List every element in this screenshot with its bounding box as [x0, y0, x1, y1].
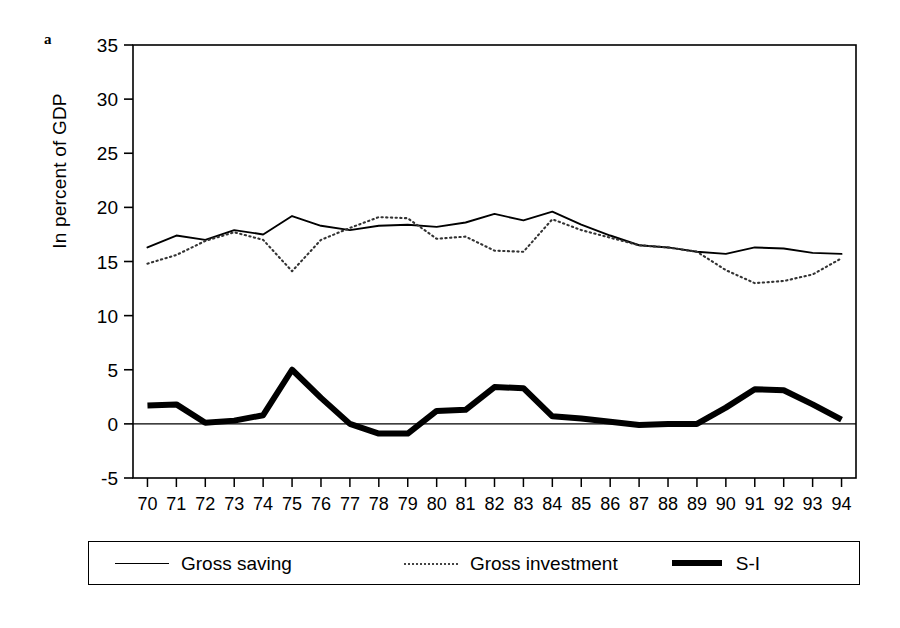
x-tick-label: 80	[427, 494, 447, 514]
x-tick-label: 84	[542, 494, 562, 514]
y-tick-label: 15	[97, 252, 118, 273]
x-tick-label: 91	[745, 494, 765, 514]
x-tick-label: 76	[311, 494, 331, 514]
x-tick-label: 87	[629, 494, 649, 514]
x-tick-label: 78	[369, 494, 389, 514]
chart-svg: 35302520151050-5 70717273747576777879808…	[0, 0, 900, 628]
y-tick-label: 20	[97, 197, 118, 218]
x-tick-label: 75	[282, 494, 302, 514]
x-tick-label: 71	[166, 494, 186, 514]
x-tick-label: 81	[456, 494, 476, 514]
x-tick-label: 72	[195, 494, 215, 514]
legend-swatch-dotted-icon	[404, 556, 458, 570]
x-tick-label: 83	[513, 494, 533, 514]
y-tick-label: -5	[101, 468, 118, 489]
y-axis-ticks: 35302520151050-5	[97, 35, 133, 489]
y-tick-label: 25	[97, 143, 118, 164]
x-tick-label: 92	[774, 494, 794, 514]
legend-swatch-solid-thin-icon	[115, 556, 169, 570]
legend-label-gross-saving: Gross saving	[181, 554, 292, 573]
x-tick-label: 86	[600, 494, 620, 514]
y-tick-label: 10	[97, 306, 118, 327]
x-tick-label: 79	[398, 494, 418, 514]
x-tick-label: 74	[253, 494, 273, 514]
x-tick-label: 82	[484, 494, 504, 514]
y-tick-label: 0	[107, 414, 118, 435]
figure-panel-a: a In percent of GDP 35302520151050-5 707…	[0, 0, 900, 628]
x-tick-label: 93	[803, 494, 823, 514]
x-tick-label: 90	[716, 494, 736, 514]
x-tick-label: 88	[658, 494, 678, 514]
y-tick-label: 30	[97, 89, 118, 110]
legend-item-s-minus-i: S-I	[670, 554, 760, 573]
x-axis-ticks: 7071727374757677787980818283848586878889…	[137, 478, 851, 514]
y-tick-label: 5	[107, 360, 118, 381]
x-tick-label: 73	[224, 494, 244, 514]
legend-swatch-solid-thick-icon	[670, 556, 724, 570]
x-tick-label: 89	[687, 494, 707, 514]
legend-item-gross-investment: Gross investment	[404, 554, 618, 573]
y-tick-label: 35	[97, 35, 118, 56]
plot-area: 35302520151050-5 70717273747576777879808…	[0, 0, 900, 628]
x-tick-label: 85	[571, 494, 591, 514]
legend-item-gross-saving: Gross saving	[115, 554, 292, 573]
legend-label-s-minus-i: S-I	[736, 554, 760, 573]
plot-frame	[133, 45, 856, 478]
x-tick-label: 94	[832, 494, 852, 514]
series-line-gross-investment	[147, 217, 841, 283]
x-tick-label: 70	[137, 494, 157, 514]
series-line-gross-saving	[147, 212, 841, 254]
legend-label-gross-investment: Gross investment	[470, 554, 618, 573]
legend: Gross saving Gross investment S-I	[88, 541, 860, 585]
x-tick-label: 77	[340, 494, 360, 514]
